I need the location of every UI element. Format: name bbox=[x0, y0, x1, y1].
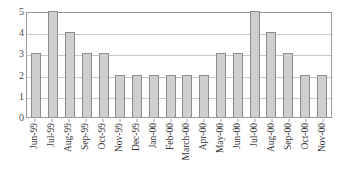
x-axis-tick-label: Jul-00 bbox=[250, 123, 260, 147]
x-axis-tick-label: Jul-99 bbox=[48, 123, 58, 147]
y-axis-tick-label: 1 bbox=[8, 92, 24, 102]
bar bbox=[132, 75, 142, 117]
x-axis-tick-mark bbox=[86, 119, 87, 122]
x-axis-slot: Jan-00 bbox=[145, 119, 162, 177]
bar bbox=[266, 32, 276, 117]
bar bbox=[300, 75, 310, 117]
x-axis-tick-mark bbox=[187, 119, 188, 122]
y-axis: 012345 bbox=[8, 12, 24, 118]
y-axis-tick-label: 3 bbox=[8, 49, 24, 59]
x-axis-tick-label: Aug-99 bbox=[64, 123, 74, 152]
bar-slot bbox=[246, 13, 263, 117]
bar-slot bbox=[263, 13, 280, 117]
bar bbox=[250, 11, 260, 117]
y-axis-tick-label: 2 bbox=[8, 71, 24, 81]
bar-slot bbox=[280, 13, 297, 117]
bar-slot bbox=[313, 13, 330, 117]
x-axis-slot: Sep-99 bbox=[78, 119, 95, 177]
x-axis-tick-label: Aug-00 bbox=[267, 123, 277, 152]
x-axis-slot: Jul-00 bbox=[247, 119, 264, 177]
x-axis-tick-label: Oct-00 bbox=[301, 123, 311, 149]
bar-slot bbox=[28, 13, 45, 117]
bar bbox=[166, 75, 176, 117]
x-axis-tick-label: Sep-00 bbox=[284, 123, 294, 150]
x-axis-tick-mark bbox=[35, 119, 36, 122]
x-axis-slot: March-00 bbox=[179, 119, 196, 177]
bar bbox=[115, 75, 125, 117]
x-axis-tick-mark bbox=[322, 119, 323, 122]
x-axis-slot: Oct-00 bbox=[297, 119, 314, 177]
x-axis-tick-label: Dec-99 bbox=[132, 123, 142, 151]
y-axis-tick-label: 4 bbox=[8, 28, 24, 38]
bar bbox=[317, 75, 327, 117]
x-axis-slot: Jun-00 bbox=[230, 119, 247, 177]
x-axis-tick-mark bbox=[136, 119, 137, 122]
x-axis-tick-label: Nov-00 bbox=[318, 123, 328, 152]
bar bbox=[149, 75, 159, 117]
x-axis-slot: Nov-99 bbox=[111, 119, 128, 177]
bar-slot bbox=[62, 13, 79, 117]
x-axis-tick-mark bbox=[170, 119, 171, 122]
x-axis-tick-label: March-00 bbox=[183, 123, 193, 160]
x-axis-slot: Aug-00 bbox=[263, 119, 280, 177]
x-axis-tick-label: Apr-00 bbox=[200, 123, 210, 150]
x-axis-slot: Sep-00 bbox=[280, 119, 297, 177]
x-axis-tick-mark bbox=[69, 119, 70, 122]
x-axis-tick-mark bbox=[153, 119, 154, 122]
x-axis-tick-label: Jun-00 bbox=[233, 123, 243, 149]
bar-slot bbox=[45, 13, 62, 117]
bar bbox=[48, 11, 58, 117]
x-axis-tick-label: Jun-99 bbox=[31, 123, 41, 149]
x-axis-tick-label: Nov-99 bbox=[115, 123, 125, 152]
bar-slot bbox=[297, 13, 314, 117]
x-axis-tick-mark bbox=[255, 119, 256, 122]
bar-slot bbox=[112, 13, 129, 117]
bar-slot bbox=[196, 13, 213, 117]
bar-slot bbox=[179, 13, 196, 117]
bar bbox=[31, 53, 41, 117]
y-axis-tick-label: 5 bbox=[8, 7, 24, 17]
plot-area bbox=[26, 12, 332, 118]
bar-slot bbox=[213, 13, 230, 117]
bar-slot bbox=[78, 13, 95, 117]
y-axis-tick-label: 0 bbox=[8, 113, 24, 123]
x-axis: Jun-99Jul-99Aug-99Sep-99Oct-99Nov-99Dec-… bbox=[26, 119, 332, 177]
bar bbox=[199, 75, 209, 117]
x-axis-slot: May-00 bbox=[213, 119, 230, 177]
x-axis-tick-mark bbox=[52, 119, 53, 122]
x-axis-slot: Jun-99 bbox=[27, 119, 44, 177]
x-axis-tick-mark bbox=[221, 119, 222, 122]
x-axis-tick-mark bbox=[204, 119, 205, 122]
bar bbox=[65, 32, 75, 117]
bar bbox=[233, 53, 243, 117]
bar bbox=[82, 53, 92, 117]
x-axis-tick-label: Oct-99 bbox=[98, 123, 108, 149]
bar-slot bbox=[229, 13, 246, 117]
bar bbox=[99, 53, 109, 117]
x-axis-slot: Jul-99 bbox=[44, 119, 61, 177]
x-axis-tick-mark bbox=[288, 119, 289, 122]
x-axis-tick-mark bbox=[271, 119, 272, 122]
bar-slot bbox=[129, 13, 146, 117]
x-axis-slot: Dec-99 bbox=[128, 119, 145, 177]
x-axis-slot: Aug-99 bbox=[61, 119, 78, 177]
x-axis-tick-mark bbox=[238, 119, 239, 122]
x-axis-slot: Nov-00 bbox=[314, 119, 331, 177]
x-axis-tick-label: Feb-00 bbox=[166, 123, 176, 150]
x-axis-slot: Oct-99 bbox=[95, 119, 112, 177]
x-axis-tick-mark bbox=[103, 119, 104, 122]
bar-series bbox=[27, 13, 331, 117]
bar bbox=[182, 75, 192, 117]
x-axis-tick-mark bbox=[305, 119, 306, 122]
bar-slot bbox=[95, 13, 112, 117]
bar-slot bbox=[162, 13, 179, 117]
bar-slot bbox=[145, 13, 162, 117]
x-axis-tick-label: Jan-00 bbox=[149, 123, 159, 148]
bar bbox=[216, 53, 226, 117]
x-axis-tick-label: May-00 bbox=[216, 123, 226, 153]
x-axis-tick-label: Sep-99 bbox=[81, 123, 91, 150]
x-axis-slot: Feb-00 bbox=[162, 119, 179, 177]
bar-chart: 012345 Jun-99Jul-99Aug-99Sep-99Oct-99Nov… bbox=[0, 0, 343, 179]
x-axis-tick-mark bbox=[119, 119, 120, 122]
bar bbox=[283, 53, 293, 117]
